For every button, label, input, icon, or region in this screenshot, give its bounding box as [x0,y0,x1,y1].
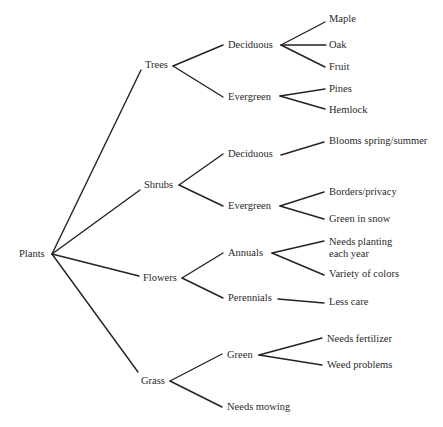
node-label-needs-planting: Needs planting each year [329,236,392,260]
node-label-grass-green: Green [227,349,253,361]
node-label-trees-deciduous: Deciduous [228,39,273,51]
edge-shrubs-to-shrubs-evergreen [179,185,223,206]
edge-annuals-to-needs-planting [272,241,324,253]
edge-plants-to-grass [52,254,138,372]
edge-shrubs-deciduous-to-blooms [281,142,324,155]
node-label-shrubs-deciduous: Deciduous [228,148,273,160]
edge-trees-deciduous-to-maple [281,22,325,45]
node-label-variety: Variety of colors [329,268,399,280]
figure-caption-cropped [18,422,218,427]
node-label-maple: Maple [329,13,356,25]
node-label-shrubs-evergreen: Evergreen [228,200,271,212]
node-label-weed-problems: Weed problems [327,359,392,371]
edge-plants-to-shrubs [52,190,140,254]
node-label-pines: Pines [329,83,352,95]
edge-shrubs-evergreen-to-borders [280,192,324,206]
root-label-plants: Plants [19,248,45,260]
edge-shrubs-evergreen-to-green-in-snow [280,206,324,219]
edge-grass-green-to-needs-fertilizer [259,338,322,355]
edge-grass-green-to-weed-problems [259,355,322,365]
edge-trees-evergreen-to-pines [280,89,325,96]
edge-trees-to-trees-evergreen [173,66,223,97]
node-label-needs-mowing: Needs mowing [227,401,290,413]
edge-flowers-to-annuals [182,253,223,278]
node-label-perennials: Perennials [228,292,272,304]
node-label-flowers: Flowers [143,272,177,284]
node-label-trees-evergreen: Evergreen [228,91,271,103]
node-label-shrubs: Shrubs [144,179,173,191]
node-label-grass: Grass [141,375,165,387]
node-label-fruit: Fruit [329,61,349,73]
edge-grass-to-needs-mowing [170,381,222,407]
node-label-hemlock: Hemlock [329,104,368,116]
edge-trees-to-trees-deciduous [173,45,223,66]
edge-shrubs-to-shrubs-deciduous [179,154,223,185]
edge-flowers-to-perennials [182,278,223,298]
edge-trees-deciduous-to-fruit [281,45,325,67]
node-label-trees: Trees [145,59,168,71]
edge-grass-to-grass-green [170,354,222,381]
node-label-oak: Oak [329,39,347,51]
node-label-green-in-snow: Green in snow [329,213,390,225]
node-label-less-care: Less care [329,296,368,308]
node-label-borders: Borders/privacy [329,186,397,198]
node-label-blooms: Blooms spring/summer [329,135,427,147]
node-label-annuals: Annuals [228,247,263,259]
edge-plants-to-trees [52,70,141,254]
plants-tree-diagram: Plants TreesDeciduousEvergreenMapleOakFr… [0,0,443,427]
node-label-needs-fertilizer: Needs fertilizer [327,333,392,345]
edge-perennials-to-less-care [278,299,324,303]
edge-trees-evergreen-to-hemlock [280,96,325,109]
edge-annuals-to-variety [272,253,324,275]
